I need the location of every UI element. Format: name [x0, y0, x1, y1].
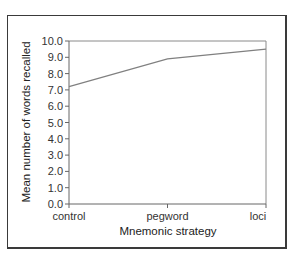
y-tick-label: 1.0 [48, 182, 63, 194]
line-chart: 0.01.02.03.04.05.06.07.08.09.010.0contro… [0, 0, 297, 257]
x-tick-label: control [52, 210, 85, 222]
x-axis-title: Mnemonic strategy [119, 225, 216, 237]
y-tick-label: 0.0 [48, 198, 63, 210]
y-tick-label: 5.0 [48, 117, 63, 129]
y-tick-label: 7.0 [48, 84, 63, 96]
plot-area: 0.01.02.03.04.05.06.07.08.09.010.0contro… [42, 35, 267, 222]
y-tick-label: 4.0 [48, 133, 63, 145]
y-axis-title: Mean number of words recalled [20, 41, 32, 202]
y-tick-label: 10.0 [42, 35, 63, 47]
x-tick-label: pegword [146, 210, 188, 222]
y-tick-label: 2.0 [48, 165, 63, 177]
x-tick-label: loci [250, 210, 267, 222]
y-tick-label: 9.0 [48, 51, 63, 63]
y-tick-label: 8.0 [48, 68, 63, 80]
data-line [69, 49, 266, 86]
y-tick-label: 3.0 [48, 149, 63, 161]
y-tick-label: 6.0 [48, 100, 63, 112]
